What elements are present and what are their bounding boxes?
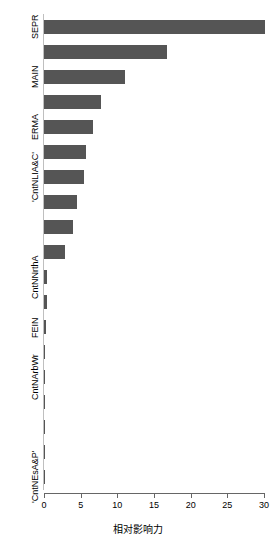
bar: [44, 445, 45, 459]
x-axis-title: 相对影响力: [0, 521, 276, 536]
y-axis-tick-label: CntNArbWr: [30, 354, 40, 400]
bar: [44, 95, 101, 109]
bar: [44, 20, 265, 34]
bar: [44, 470, 45, 484]
plot-area: [44, 14, 264, 490]
x-axis-tick-label: 20: [186, 500, 196, 510]
x-axis-tick: [191, 493, 192, 498]
bar: [44, 195, 77, 209]
x-axis-tick: [81, 493, 82, 498]
bar: [44, 70, 125, 84]
y-axis-tick-label: MAIN: [30, 66, 40, 89]
x-axis-tick-label: 25: [222, 500, 232, 510]
x-axis-tick-label: 5: [78, 500, 83, 510]
bar: [44, 395, 45, 409]
y-axis-tick-label: FEIN: [30, 317, 40, 338]
x-axis-tick: [227, 493, 228, 498]
bar: [44, 220, 73, 234]
y-axis-tick-label: 'CntNLIA&C': [30, 152, 40, 202]
x-axis-tick: [154, 493, 155, 498]
bar: [44, 420, 45, 434]
bar: [44, 370, 45, 384]
bar: [44, 170, 84, 184]
y-axis-tick-label: CntNNrthA: [30, 256, 40, 300]
y-axis-tick-label: SEPR: [30, 15, 40, 40]
bar: [44, 45, 167, 59]
relative-influence-bar-chart: 051015202530 SEPRMAINERMA'CntNLIA&C'CntN…: [0, 0, 276, 557]
x-axis-tick-label: 30: [259, 500, 269, 510]
y-axis-tick-label: ERMA: [30, 114, 40, 140]
bar: [44, 270, 47, 284]
x-axis-tick: [117, 493, 118, 498]
bar: [44, 120, 93, 134]
x-axis-tick: [264, 493, 265, 498]
x-axis-tick: [44, 493, 45, 498]
bar: [44, 345, 45, 359]
bar: [44, 245, 65, 259]
x-axis-tick-label: 0: [41, 500, 46, 510]
bar: [44, 145, 86, 159]
x-axis-tick-label: 15: [149, 500, 159, 510]
bar: [44, 320, 46, 334]
x-axis-tick-label: 10: [112, 500, 122, 510]
bar: [44, 295, 47, 309]
y-axis-tick-label: 'CntNEsA&P': [30, 451, 40, 503]
